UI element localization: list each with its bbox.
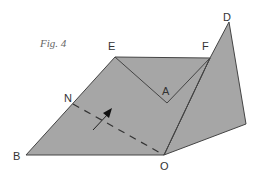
label-O: O	[160, 160, 169, 172]
label-B: B	[13, 150, 20, 162]
folding-diagram: Fig. 4 E F D A N B O	[0, 0, 255, 181]
label-E: E	[108, 40, 115, 52]
label-F: F	[202, 40, 209, 52]
label-D: D	[223, 11, 231, 23]
label-A: A	[162, 85, 170, 97]
label-N: N	[64, 92, 72, 104]
figure-caption: Fig. 4	[39, 37, 67, 49]
